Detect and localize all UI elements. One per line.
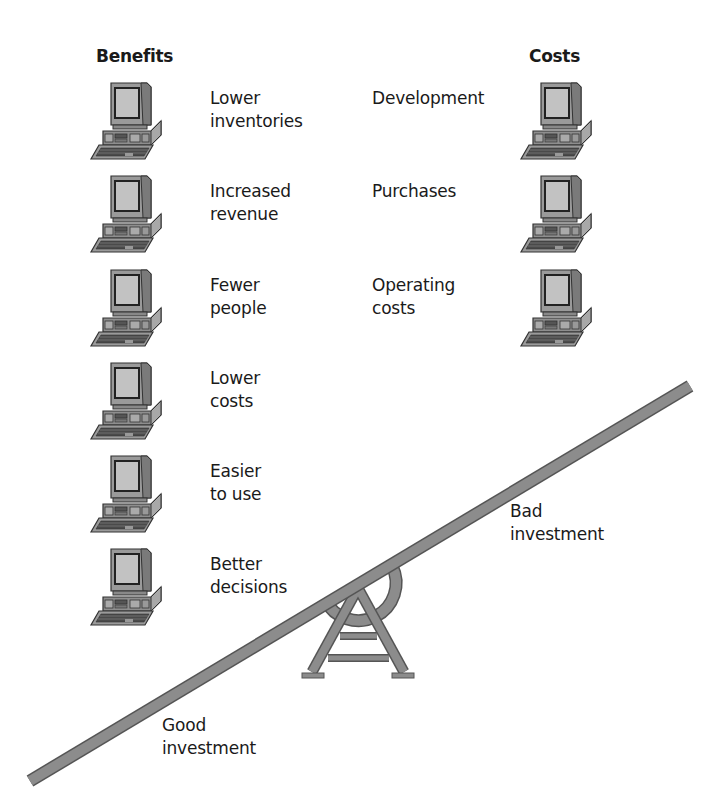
cost-label: Development: [372, 87, 484, 110]
benefit-label: Lower costs: [210, 367, 260, 413]
benefit-label: Better decisions: [210, 553, 287, 599]
benefit-label: Lower inventories: [210, 87, 303, 133]
costs-heading: Costs: [529, 46, 580, 66]
benefit-label: Fewer people: [210, 274, 266, 320]
computer-icon: [85, 355, 173, 443]
computer-icon: [85, 541, 173, 629]
benefits-heading: Benefits: [96, 46, 173, 66]
benefit-label: Increased revenue: [210, 180, 291, 226]
computer-icon: [515, 75, 603, 163]
benefit-label: Easier to use: [210, 460, 261, 506]
good-investment-label: Good investment: [162, 714, 256, 760]
computer-icon: [85, 448, 173, 536]
bad-investment-label: Bad investment: [510, 500, 604, 546]
cost-label: Operating costs: [372, 274, 455, 320]
computer-icon: [85, 168, 173, 256]
computer-icon: [515, 262, 603, 350]
computer-icon: [515, 168, 603, 256]
cost-label: Purchases: [372, 180, 456, 203]
computer-icon: [85, 262, 173, 350]
computer-icon: [85, 75, 173, 163]
